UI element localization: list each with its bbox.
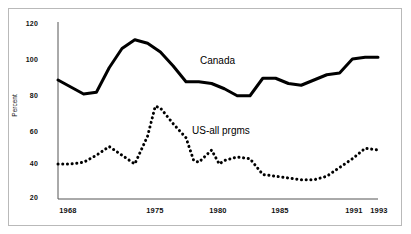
chart-plot-area: [0, 0, 411, 234]
series-line-us-all-prgms: [58, 106, 378, 180]
series-line-canada: [58, 40, 378, 96]
